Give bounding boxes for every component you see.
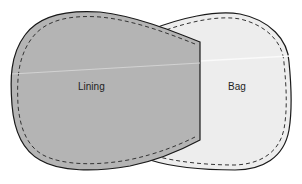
lining-bag-diagram: Lining Bag: [0, 0, 302, 184]
lining-piece: [11, 12, 200, 170]
lining-label: Lining: [78, 81, 105, 92]
bag-label: Bag: [228, 81, 246, 92]
